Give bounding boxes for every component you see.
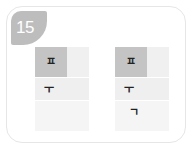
light-cell bbox=[67, 47, 89, 77]
row-background bbox=[115, 101, 169, 131]
grid-row: ㅍ bbox=[35, 47, 89, 77]
jamo-glyph: ㄱ bbox=[129, 107, 139, 118]
jamo-glyph: ㅍ bbox=[126, 56, 136, 67]
question-number-badge: 15 bbox=[11, 11, 47, 45]
grid-row: ㅜ bbox=[35, 78, 89, 100]
right-grid: ㅍ ㅜ ㄱ bbox=[115, 47, 169, 131]
grid-row: ㅍ bbox=[115, 47, 169, 77]
jamo-glyph: ㅜ bbox=[44, 84, 54, 95]
grid-row: ㅜ bbox=[115, 78, 169, 100]
jamo-glyph: ㅍ bbox=[46, 56, 56, 67]
jamo-glyph: ㅜ bbox=[124, 84, 134, 95]
grid-row bbox=[35, 101, 89, 131]
grid-row: ㄱ bbox=[115, 101, 169, 131]
light-cell bbox=[147, 47, 169, 77]
row-background bbox=[35, 101, 89, 131]
left-grid: ㅍ ㅜ bbox=[35, 47, 89, 131]
